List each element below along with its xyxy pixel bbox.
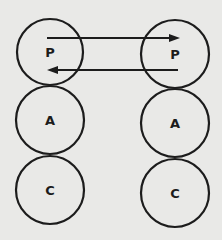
transaction-arrows: [47, 34, 180, 74]
transactional-diagram: P A C P A C: [0, 0, 222, 240]
left-parent-label: P: [45, 45, 55, 60]
right-adult-label: A: [170, 116, 180, 131]
left-adult-label: A: [45, 113, 55, 128]
right-parent-label: P: [170, 47, 180, 62]
arrowhead-icon: [47, 66, 58, 74]
right-P-to-left-P-arrow: [47, 66, 178, 74]
arrowhead-icon: [169, 34, 180, 42]
left-P-to-right-P-arrow: [47, 34, 180, 42]
left-child-label: C: [45, 183, 55, 198]
diagram-canvas: [0, 0, 222, 240]
right-child-label: C: [170, 186, 180, 201]
